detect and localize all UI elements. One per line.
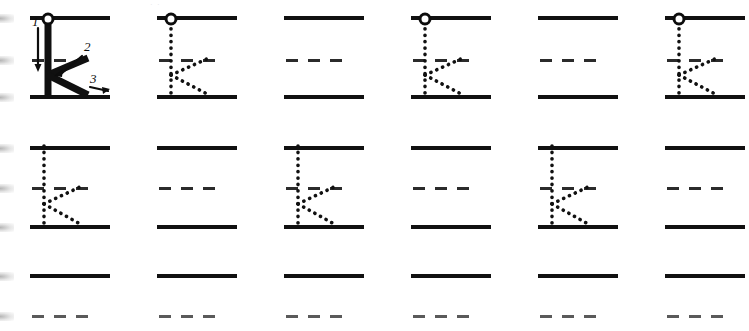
stroke-number-3: 3 <box>89 71 97 86</box>
guide-line-baseline <box>157 225 237 229</box>
guide-line-middle-dashed <box>540 315 598 318</box>
k-lower-leg-stroke <box>298 204 336 225</box>
guide-line-middle-dashed <box>286 315 344 318</box>
scan-edge-smudge <box>0 184 14 193</box>
start-point-dot <box>420 14 430 24</box>
stroke-1-arrow-head <box>35 64 42 72</box>
scan-edge-smudge <box>0 272 14 281</box>
k-upper-arm-stroke <box>171 58 209 75</box>
trace-letter-glyph <box>538 144 644 249</box>
guide-line-middle-dashed <box>667 315 725 318</box>
k-upper-arm-stroke <box>552 186 590 204</box>
model-letter-glyph: 123 <box>30 14 136 119</box>
scan-edge-smudge <box>0 223 14 232</box>
trace-letter-glyph <box>30 144 136 249</box>
guide-line-middle-dashed <box>413 187 471 190</box>
k-upper-arm-stroke <box>298 186 336 204</box>
trace-letter-glyph <box>665 14 749 119</box>
guide-line-middle-dashed <box>667 187 725 190</box>
start-point-dot <box>674 14 684 24</box>
guide-line-middle-dashed <box>286 59 344 62</box>
k-upper-arm-stroke <box>48 58 88 75</box>
k-lower-leg-stroke <box>44 204 82 225</box>
stroke-number-2: 2 <box>84 39 91 54</box>
guide-line-baseline <box>538 95 618 99</box>
k-upper-arm-stroke <box>679 58 717 75</box>
scan-edge-smudge <box>0 144 14 153</box>
scan-edge-smudge <box>0 56 14 65</box>
k-lower-leg-stroke <box>679 75 717 95</box>
k-lower-leg-stroke <box>48 75 88 95</box>
faint-masthead-text: · · <box>150 0 410 7</box>
guide-line-baseline <box>284 95 364 99</box>
stroke-number-1: 1 <box>32 14 39 29</box>
guide-line-middle-dashed <box>413 315 471 318</box>
guide-line-top <box>284 274 364 278</box>
k-lower-leg-stroke <box>171 75 209 95</box>
guide-line-top <box>538 274 618 278</box>
guide-line-middle-dashed <box>159 315 217 318</box>
guide-line-baseline <box>411 225 491 229</box>
guide-line-top <box>157 146 237 150</box>
guide-line-middle-dashed <box>159 187 217 190</box>
guide-line-top <box>538 16 618 20</box>
scan-edge-smudge <box>0 312 14 321</box>
k-lower-leg-stroke <box>552 204 590 225</box>
guide-line-top <box>157 274 237 278</box>
scan-edge-smudge <box>0 14 14 23</box>
guide-line-top <box>411 274 491 278</box>
k-lower-leg-stroke <box>425 75 463 95</box>
trace-letter-glyph <box>157 14 263 119</box>
guide-line-baseline <box>665 225 745 229</box>
k-upper-arm-stroke <box>425 58 463 75</box>
start-point-dot <box>166 14 176 24</box>
guide-line-top <box>284 16 364 20</box>
trace-letter-glyph <box>411 14 517 119</box>
k-upper-arm-stroke <box>44 186 82 204</box>
guide-line-middle-dashed <box>540 59 598 62</box>
guide-line-top <box>665 274 745 278</box>
trace-letter-glyph <box>284 144 390 249</box>
guide-line-top <box>30 274 110 278</box>
guide-line-top <box>665 146 745 150</box>
guide-line-middle-dashed <box>32 315 90 318</box>
scan-edge-smudge <box>0 93 14 102</box>
start-point-dot <box>43 14 53 24</box>
guide-line-top <box>411 146 491 150</box>
